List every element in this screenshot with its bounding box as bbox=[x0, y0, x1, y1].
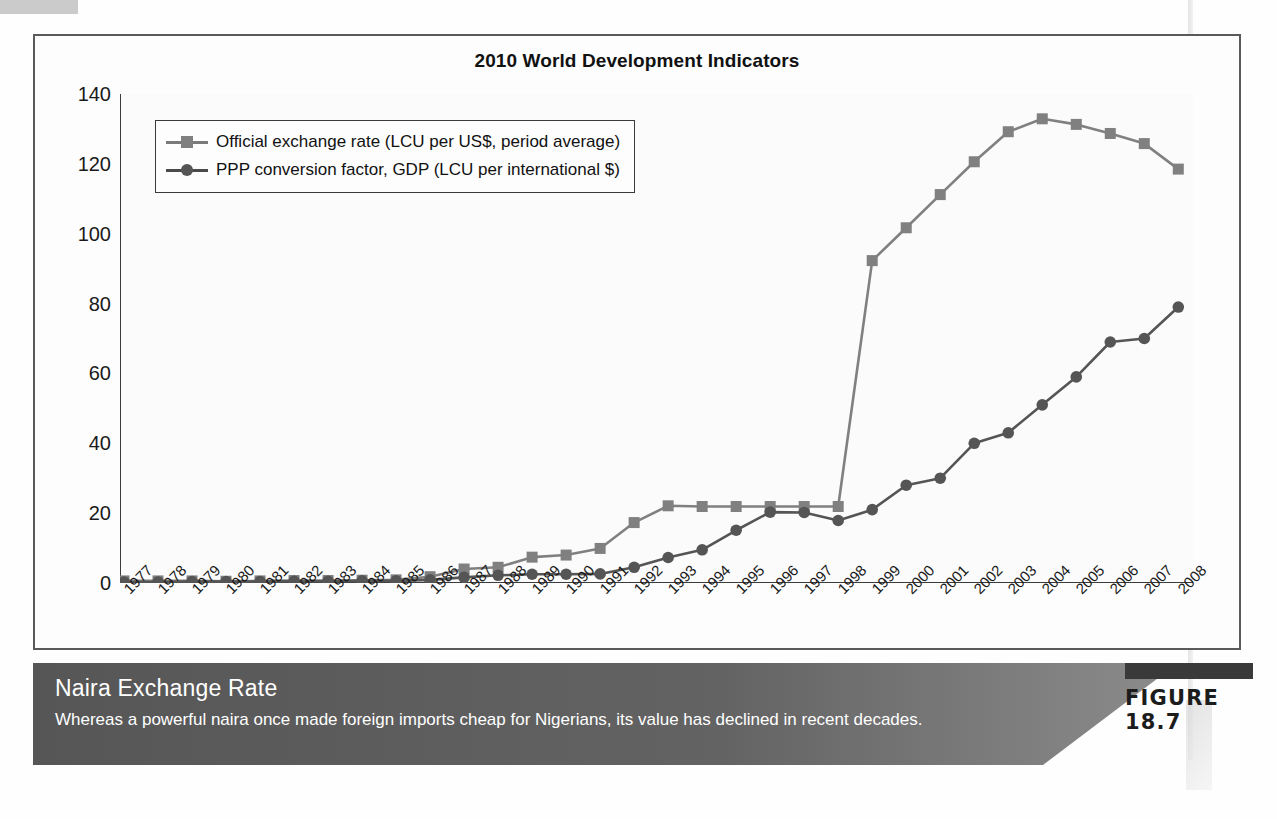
y-tick-label-80: 80 bbox=[89, 292, 111, 315]
y-tick-label-40: 40 bbox=[89, 432, 111, 455]
legend-item-ppp-conversion-factor: PPP conversion factor, GDP (LCU per inte… bbox=[166, 156, 620, 184]
legend-label-1: PPP conversion factor, GDP (LCU per inte… bbox=[216, 160, 620, 180]
figure-tag-label: FIGURE 18.7 bbox=[1125, 686, 1277, 734]
y-tick-label-60: 60 bbox=[89, 362, 111, 385]
legend-circle-marker-icon bbox=[166, 161, 208, 179]
legend-item-official-exchange-rate: Official exchange rate (LCU per US$, per… bbox=[166, 128, 620, 156]
figure-tag: FIGURE 18.7 bbox=[1125, 663, 1277, 734]
caption-title: Naira Exchange Rate bbox=[55, 673, 955, 703]
y-tick-label-0: 0 bbox=[100, 572, 111, 595]
chart-legend: Official exchange rate (LCU per US$, per… bbox=[155, 120, 635, 193]
legend-square-marker-icon bbox=[166, 133, 208, 151]
figure-container: 2010 World Development Indicators 020406… bbox=[0, 0, 1277, 819]
legend-label-0: Official exchange rate (LCU per US$, per… bbox=[216, 132, 620, 152]
scan-artifact bbox=[0, 0, 78, 14]
x-axis-tick-labels: 1977197819791980198119821983198419851986… bbox=[120, 585, 1193, 655]
y-tick-label-20: 20 bbox=[89, 502, 111, 525]
y-tick-label-100: 100 bbox=[78, 222, 111, 245]
y-tick-label-120: 120 bbox=[78, 152, 111, 175]
chart-frame: 2010 World Development Indicators 020406… bbox=[33, 34, 1241, 650]
y-axis-tick-labels: 020406080100120140 bbox=[35, 94, 111, 583]
chart-title: 2010 World Development Indicators bbox=[35, 50, 1239, 72]
caption-text-block: Naira Exchange Rate Whereas a powerful n… bbox=[55, 673, 955, 732]
figure-tag-bar bbox=[1125, 663, 1253, 679]
caption-body: Whereas a powerful naira once made forei… bbox=[55, 707, 955, 732]
y-tick-label-140: 140 bbox=[78, 83, 111, 106]
caption-band: Naira Exchange Rate Whereas a powerful n… bbox=[33, 663, 1178, 765]
